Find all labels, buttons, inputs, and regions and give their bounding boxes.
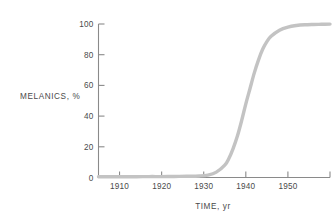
x-tick-label-0: 1910 [110,182,129,191]
y-axis-title: MELANICS, % [20,92,80,101]
x-tick-label-1: 1920 [152,182,171,191]
x-tick-label-4: 1950 [278,182,297,191]
chart-svg: 020406080100 19101920193019401950 MELANI… [0,0,336,222]
x-axis-title: TIME, yr [195,202,231,211]
y-tick-label-2: 40 [84,112,94,121]
y-tick-label-3: 60 [84,81,94,90]
y-tick-label-1: 20 [84,143,94,152]
x-tick-label-2: 1930 [194,182,213,191]
y-tick-label-4: 80 [84,51,94,60]
y-tick-label-0: 0 [89,174,94,183]
chart-figure: 020406080100 19101920193019401950 MELANI… [0,0,336,222]
x-tick-label-3: 1940 [236,182,255,191]
y-tick-label-5: 100 [79,20,94,29]
